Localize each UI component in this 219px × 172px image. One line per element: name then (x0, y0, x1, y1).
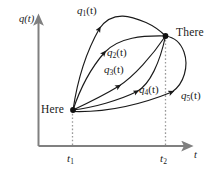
y-axis-label: q(t) (19, 14, 34, 25)
path-curve-q2-head (73, 53, 105, 111)
endpoint-dot-here (70, 107, 76, 113)
path-curves-group (73, 16, 186, 111)
path-label-q5-base: q (181, 89, 187, 101)
path-label-q1-base: q (77, 4, 83, 16)
x-tick-t1-sub: 1 (70, 157, 74, 166)
endpoint-label-here: Here (41, 104, 64, 116)
path-label-q2: q2(t) (107, 47, 127, 60)
path-label-q4: q4(t) (139, 84, 159, 97)
path-label-q4-arg: (t) (148, 83, 158, 95)
endpoint-label-there: There (176, 27, 204, 39)
path-curve-q1-tail (100, 16, 166, 36)
figure-canvas: q(t) t t1 t2 Here There q1(t) q2(t) q3(t… (0, 0, 219, 172)
path-label-q4-base: q (139, 83, 145, 95)
x-axis-label: t (194, 150, 197, 161)
path-label-q3: q3(t) (104, 64, 124, 77)
x-tick-label-t1: t1 (67, 153, 74, 166)
path-label-q5: q5(t) (181, 90, 201, 103)
path-label-q5-arg: (t) (190, 89, 200, 101)
x-tick-t2-sub: 2 (163, 157, 167, 166)
path-curve-q3-head (73, 86, 119, 110)
path-label-q1-arg: (t) (86, 4, 96, 16)
endpoint-dot-there (163, 33, 169, 39)
path-curve-q5-tail (166, 36, 186, 92)
path-label-q1: q1(t) (77, 5, 97, 18)
path-label-q3-arg: (t) (113, 63, 123, 75)
path-label-q2-arg: (t) (116, 46, 126, 58)
path-label-q3-base: q (104, 63, 110, 75)
path-label-q2-base: q (107, 46, 113, 58)
x-tick-label-t2: t2 (160, 153, 167, 166)
